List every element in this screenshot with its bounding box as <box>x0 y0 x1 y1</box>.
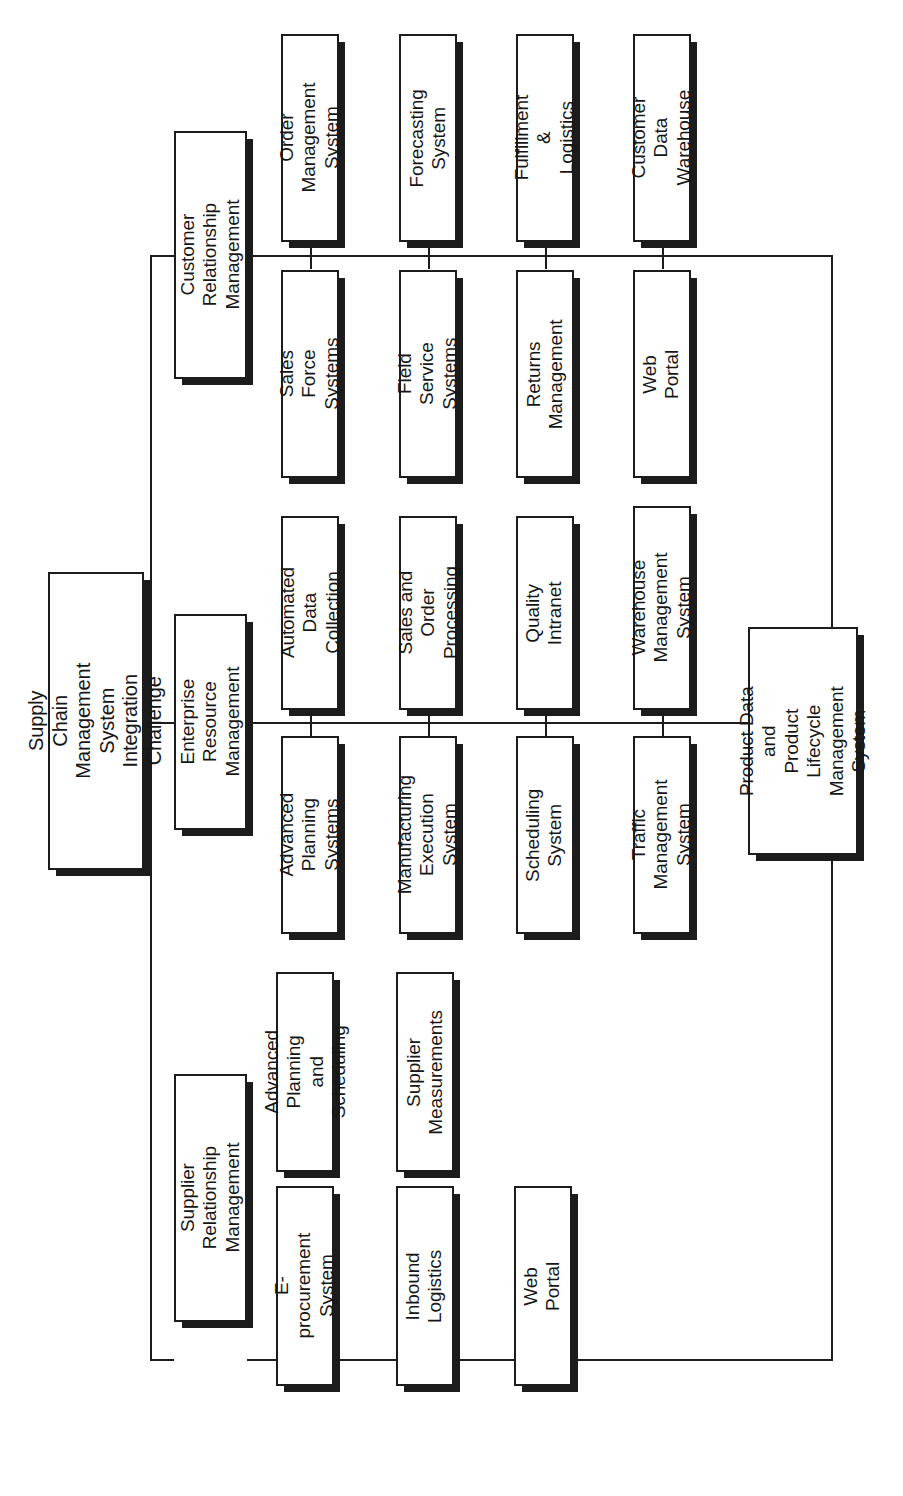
connector-trunk-to-srm <box>150 1359 174 1361</box>
node-sales-and-order-processing-label: Sales and Order Processing <box>394 567 461 660</box>
node-web-portal-srm[interactable]: Web Portal <box>514 1186 572 1386</box>
node-scheduling-system[interactable]: Scheduling System <box>516 736 574 934</box>
connector-crm-stub-2 <box>428 243 430 269</box>
node-traffic-management-system[interactable]: Traffic Management System <box>633 736 691 934</box>
connector-shared-right-trunk-lower <box>831 855 833 1361</box>
connector-erm-stub-3 <box>545 710 547 736</box>
node-e-procurement-system-label: E-procurement System <box>271 1233 338 1339</box>
node-web-portal-crm[interactable]: Web Portal <box>633 270 691 478</box>
node-traffic-management-system-label: Traffic Management System <box>628 780 695 890</box>
node-advanced-planning-and-scheduling[interactable]: Advanced Planning and Scheduling <box>276 972 334 1172</box>
node-automated-data-collection[interactable]: Automated Data Collection <box>281 516 339 710</box>
node-fulfillment-logistics-label: Fulfillment & Logistics <box>511 95 578 180</box>
node-web-portal-srm-label: Web Portal <box>521 1261 566 1310</box>
connector-erm-stub-4 <box>662 710 664 736</box>
node-web-portal-crm-label: Web Portal <box>640 349 685 398</box>
node-category-crm-label: Customer Relationship Management <box>177 200 244 310</box>
node-sales-and-order-processing[interactable]: Sales and Order Processing <box>399 516 457 710</box>
node-customer-data-warehouse-label: Customer Data Warehouse <box>628 90 695 186</box>
node-scheduling-system-label: Scheduling System <box>523 788 568 881</box>
node-category-srm[interactable]: Supplier Relationship Management <box>174 1074 247 1322</box>
node-returns-management-label: Returns Management <box>523 319 568 429</box>
diagram-canvas: Supply Chain Management System Integrati… <box>0 0 903 1496</box>
node-advanced-planning-systems-label: Advanced Planning Systems <box>276 793 343 877</box>
node-category-srm-label: Supplier Relationship Management <box>177 1143 244 1253</box>
node-root-label: Supply Chain Management System Integrati… <box>25 663 167 779</box>
node-order-management-system[interactable]: Order Management System <box>281 34 339 242</box>
node-category-erm-label: Enterprise Resource Management <box>177 667 244 777</box>
node-manufacturing-execution-system-label: Manufacturing Execution System <box>394 775 461 894</box>
connector-crm-stub-1 <box>310 243 312 269</box>
node-inbound-logistics-label: Inbound Logistics <box>403 1249 448 1322</box>
connector-crm-rail <box>247 255 833 257</box>
node-supplier-measurements[interactable]: Supplier Measurements <box>396 972 454 1172</box>
node-quality-intranet[interactable]: Quality Intranet <box>516 516 574 710</box>
node-category-crm[interactable]: Customer Relationship Management <box>174 131 247 379</box>
node-returns-management[interactable]: Returns Management <box>516 270 574 478</box>
node-advanced-planning-systems[interactable]: Advanced Planning Systems <box>281 736 339 934</box>
connector-trunk-to-crm <box>150 255 174 257</box>
connector-main-trunk <box>150 255 152 1360</box>
node-product-data-plm[interactable]: Product Data and Product Lifecycle Manag… <box>748 627 858 855</box>
connector-erm-stub-2 <box>428 710 430 736</box>
node-warehouse-management-system[interactable]: Warehouse Management System <box>633 506 691 710</box>
node-product-data-plm-label: Product Data and Product Lifecycle Manag… <box>736 686 870 796</box>
connector-crm-stub-3 <box>545 243 547 269</box>
node-warehouse-management-system-label: Warehouse Management System <box>628 553 695 663</box>
node-manufacturing-execution-system[interactable]: Manufacturing Execution System <box>399 736 457 934</box>
node-e-procurement-system[interactable]: E-procurement System <box>276 1186 334 1386</box>
node-root[interactable]: Supply Chain Management System Integrati… <box>48 572 144 870</box>
node-field-service-systems-label: Field Service Systems <box>394 338 461 410</box>
node-forecasting-system[interactable]: Forecasting System <box>399 34 457 242</box>
node-field-service-systems[interactable]: Field Service Systems <box>399 270 457 478</box>
node-advanced-planning-and-scheduling-label: Advanced Planning and Scheduling <box>260 1025 350 1118</box>
node-forecasting-system-label: Forecasting System <box>406 89 451 187</box>
node-supplier-measurements-label: Supplier Measurements <box>403 1010 448 1134</box>
connector-erm-stub-1 <box>310 710 312 736</box>
node-customer-data-warehouse[interactable]: Customer Data Warehouse <box>633 34 691 242</box>
node-sales-force-systems[interactable]: Sales Force Systems <box>281 270 339 478</box>
connector-crm-stub-4 <box>662 243 664 269</box>
node-inbound-logistics[interactable]: Inbound Logistics <box>396 1186 454 1386</box>
node-automated-data-collection-label: Automated Data Collection <box>276 568 343 659</box>
node-category-erm[interactable]: Enterprise Resource Management <box>174 614 247 830</box>
node-order-management-system-label: Order Management System <box>276 83 343 193</box>
node-fulfillment-logistics[interactable]: Fulfillment & Logistics <box>516 34 574 242</box>
node-sales-force-systems-label: Sales Force Systems <box>276 338 343 410</box>
node-quality-intranet-label: Quality Intranet <box>523 581 568 645</box>
